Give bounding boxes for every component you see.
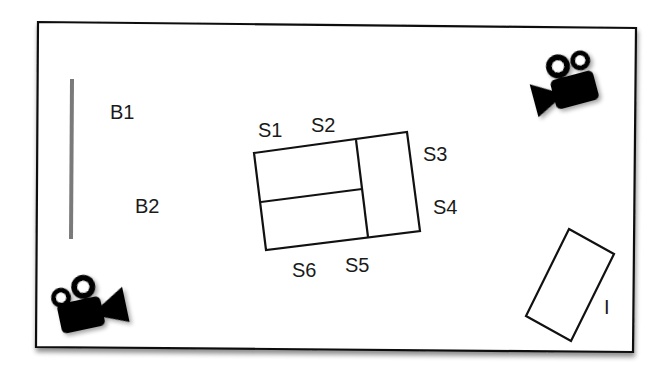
label-b2: B2 <box>135 195 159 217</box>
barrier-bar <box>71 79 72 239</box>
room-frame <box>36 22 636 352</box>
label-s3: S3 <box>423 143 447 165</box>
label-s4: S4 <box>433 196 457 218</box>
label-s6: S6 <box>292 259 316 281</box>
diagram-canvas: B1 B2 S1 S2 S3 S4 S5 S6 I <box>0 0 670 376</box>
label-s2: S2 <box>311 114 335 136</box>
label-b1: B1 <box>110 101 134 123</box>
label-s5: S5 <box>345 254 369 276</box>
label-s1: S1 <box>258 119 282 141</box>
label-i: I <box>604 296 610 318</box>
